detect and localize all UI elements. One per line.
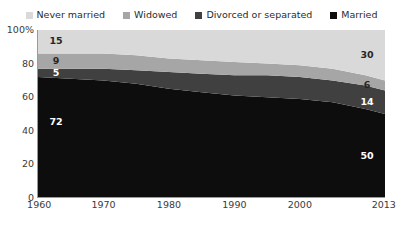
y-axis-tick-label: 80 bbox=[22, 59, 34, 69]
legend-item[interactable]: Divorced or separated bbox=[195, 10, 312, 20]
chart-legend: Never marriedWidowedDivorced or separate… bbox=[0, 6, 403, 24]
square-swatch-icon bbox=[26, 12, 33, 19]
y-axis-tick-label: 20 bbox=[22, 160, 34, 170]
x-axis-tick-label: 1960 bbox=[27, 200, 51, 210]
square-swatch-icon bbox=[123, 12, 130, 19]
y-axis: 100%806040200 bbox=[0, 30, 36, 198]
legend-item[interactable]: Widowed bbox=[123, 10, 177, 20]
stacked-area-chart: Never marriedWidowedDivorced or separate… bbox=[0, 0, 403, 229]
y-axis-tick-label: 100% bbox=[7, 25, 34, 35]
y-axis-tick-label: 60 bbox=[22, 92, 34, 102]
plot-area: 1595723061450 bbox=[38, 30, 385, 198]
x-axis: 196019701980199020002013 bbox=[38, 200, 385, 216]
legend-item-label: Never married bbox=[37, 10, 106, 20]
x-axis-tick-label: 2000 bbox=[288, 200, 312, 210]
y-axis-tick-label: 40 bbox=[22, 126, 34, 136]
legend-item-label: Widowed bbox=[134, 10, 177, 20]
x-axis-tick-label: 1990 bbox=[222, 200, 246, 210]
x-axis-tick-label: 1970 bbox=[91, 200, 115, 210]
square-swatch-icon bbox=[195, 12, 202, 19]
x-axis-tick-label: 2013 bbox=[372, 200, 396, 210]
area-series-svg bbox=[38, 30, 385, 198]
x-axis-tick-label: 1980 bbox=[157, 200, 181, 210]
legend-item[interactable]: Married bbox=[330, 10, 377, 20]
legend-item-label: Divorced or separated bbox=[206, 10, 312, 20]
square-swatch-icon bbox=[330, 12, 337, 19]
legend-item-label: Married bbox=[341, 10, 377, 20]
legend-item[interactable]: Never married bbox=[26, 10, 106, 20]
x-axis-line bbox=[38, 197, 385, 198]
